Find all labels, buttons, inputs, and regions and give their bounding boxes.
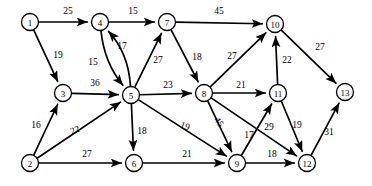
edge-weight-5-9: 19 [179, 120, 192, 133]
edge-weight-12-13: 31 [324, 127, 334, 137]
node-12[interactable]: 12 [299, 155, 316, 172]
node-label-8: 8 [202, 89, 207, 99]
node-label-11: 11 [274, 89, 283, 99]
node-label-10: 10 [271, 20, 281, 30]
node-1[interactable]: 1 [22, 14, 39, 31]
edge-weight-3-5: 36 [90, 78, 100, 88]
edge-weight-8-12: 29 [264, 122, 274, 132]
node-label-13: 13 [341, 88, 351, 98]
edge-5-to-6 [131, 104, 133, 150]
nodes-layer: 14710358111326912 [22, 14, 354, 172]
edge-weight-8-10: 27 [227, 51, 237, 61]
node-label-6: 6 [132, 159, 137, 169]
edge-weight-8-9: 45 [212, 115, 226, 129]
edge-weight-4-7: 15 [128, 6, 138, 16]
node-7[interactable]: 7 [159, 14, 176, 31]
edge-weight-2-3: 16 [31, 120, 41, 130]
edge-weight-10-13: 27 [315, 42, 325, 52]
node-label-12: 12 [303, 159, 312, 169]
node-label-2: 2 [28, 159, 33, 169]
edge-weight-9-12: 18 [267, 149, 277, 159]
edge-11-to-10 [276, 37, 278, 84]
node-label-9: 9 [235, 159, 240, 169]
edge-weight-4-5: 17 [117, 41, 127, 51]
edge-weight-5-7: 27 [153, 55, 163, 65]
edge-weight-8-11: 21 [236, 80, 246, 90]
node-4[interactable]: 4 [92, 14, 109, 31]
node-label-5: 5 [129, 91, 134, 101]
node-11[interactable]: 11 [270, 85, 287, 102]
node-10[interactable]: 10 [267, 16, 284, 33]
node-5[interactable]: 5 [123, 87, 140, 104]
node-label-7: 7 [165, 18, 170, 28]
node-9[interactable]: 9 [229, 155, 246, 172]
edge-weight-1-4: 25 [63, 6, 73, 16]
edge-weight-9-11: 17 [244, 130, 254, 140]
node-8[interactable]: 8 [196, 85, 213, 102]
edge-5-to-8 [140, 93, 191, 94]
edge-weight-6-9: 21 [182, 149, 192, 159]
node-13[interactable]: 13 [337, 84, 354, 101]
edge-4-to-5 [101, 31, 123, 85]
node-6[interactable]: 6 [126, 155, 143, 172]
edge-weight-11-10: 22 [282, 55, 292, 65]
edge-weight-labels-layer: 2519154515173627231827272221162227182119… [31, 6, 334, 159]
edge-weight-2-5: 22 [69, 123, 82, 136]
node-2[interactable]: 2 [22, 155, 39, 172]
edge-weight-1-3: 19 [53, 50, 63, 60]
edge-8-to-10 [211, 33, 266, 87]
edge-weight-5-8: 23 [163, 80, 173, 90]
node-label-4: 4 [98, 18, 103, 28]
edge-weight-11-12: 19 [292, 120, 302, 130]
edge-7-to-10 [176, 22, 262, 24]
edge-3-to-5 [72, 93, 118, 94]
edges-layer [34, 22, 339, 163]
edge-weight-7-8: 18 [192, 52, 202, 62]
network-graph-canvas: 2519154515173627231827272221162227182119… [0, 0, 372, 186]
edge-weight-5-6: 18 [137, 126, 147, 136]
edge-weight-2-6: 27 [82, 149, 92, 159]
node-label-3: 3 [61, 89, 66, 99]
edge-5-to-4 [109, 31, 131, 85]
node-label-1: 1 [28, 18, 33, 28]
node-3[interactable]: 3 [55, 85, 72, 102]
edge-weight-5-4: 15 [88, 57, 98, 67]
edge-weight-7-10: 45 [214, 6, 224, 16]
network-diagram: 2519154515173627231827272221162227182119… [0, 0, 372, 186]
